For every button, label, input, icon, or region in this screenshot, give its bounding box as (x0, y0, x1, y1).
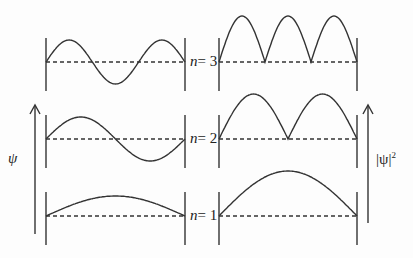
level-label-n1: n= 1 (190, 207, 217, 224)
right-box-walls (219, 38, 357, 245)
psi-n2-curve (46, 117, 185, 161)
level-label-n2: n= 2 (190, 130, 217, 147)
left-box-walls (46, 38, 185, 245)
psi-n3-curve (46, 40, 185, 84)
psi-n1-curve (46, 196, 185, 216)
psi-axis-label: ψ (8, 150, 17, 167)
prob-axis-label: |ψ|2 (376, 150, 396, 168)
prob-n1-curve (219, 171, 357, 216)
level-label-n3: n= 3 (190, 53, 217, 70)
diagram: ψ |ψ|2 n= 3 n= 2 n= 1 (0, 0, 413, 258)
prob-n3-curve (219, 16, 357, 62)
prob-n2-curve (219, 94, 357, 139)
